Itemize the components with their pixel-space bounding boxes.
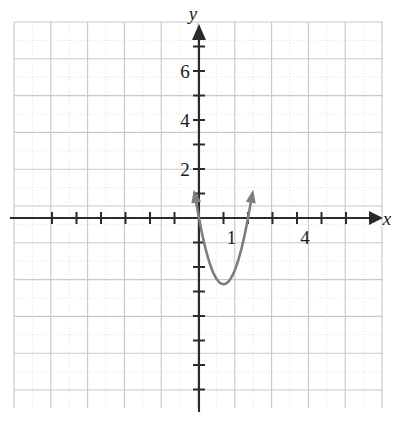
y-tick-label: 4 (180, 110, 190, 131)
y-tick-label: 2 (180, 159, 190, 180)
graph-figure: 14246 y x (0, 0, 396, 421)
x-tick-label: 4 (300, 227, 310, 248)
x-tick-label: 1 (227, 227, 237, 248)
y-tick-label: 6 (180, 61, 190, 82)
coordinate-plane-svg: 14246 y x (0, 0, 396, 421)
y-axis-label: y (187, 3, 198, 24)
x-axis-label: x (382, 208, 392, 229)
